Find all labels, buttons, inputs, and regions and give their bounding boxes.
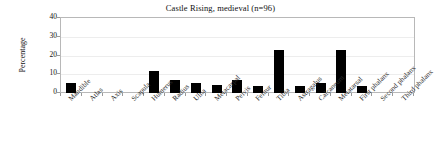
y-tick-mark (56, 55, 60, 56)
y-axis-label: Percentage (18, 22, 30, 88)
bar-slot (248, 18, 269, 93)
bar-slot (61, 18, 82, 93)
x-axis-tick-labels: MandibleAtlasAxisScapulaHumerusRadiusUln… (0, 97, 441, 162)
bar-slot (206, 18, 227, 93)
bar-slot (289, 18, 310, 93)
y-tick-label: 30 (35, 32, 57, 40)
chart-title: Castle Rising, medieval (n=96) (0, 3, 441, 13)
y-tick-label: 0 (35, 88, 57, 96)
bar-slot (269, 18, 290, 93)
y-tick-mark (56, 17, 60, 18)
bar (274, 50, 284, 93)
y-tick-mark (56, 36, 60, 37)
bar-slot (186, 18, 207, 93)
x-tick-mark (60, 93, 61, 96)
bar-chart-figure: Castle Rising, medieval (n=96) Percentag… (0, 0, 441, 162)
y-tick-mark (56, 73, 60, 74)
bar-slot (103, 18, 124, 93)
y-tick-label: 10 (35, 69, 57, 77)
y-axis-tick-labels: 010203040 (32, 17, 57, 93)
bar-slot (123, 18, 144, 93)
y-tick-label: 40 (35, 13, 57, 21)
y-tick-label: 20 (35, 51, 57, 59)
